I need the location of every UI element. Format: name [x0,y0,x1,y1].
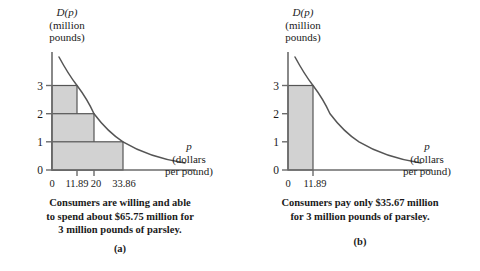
y-tick-label-0: 0 [37,164,43,176]
x-axis-unit-line2: per pound) [403,165,451,177]
x-ticks-a [77,170,94,176]
plot-area-b: 0 1 2 3 0 11.89 D(p) (million pounds) [240,0,480,195]
x-axis-variable-label: p [424,140,430,152]
caption-a-line1: Consumers are willing and able [49,197,191,208]
y-axis-label-a: D(p) (million pounds) [30,6,104,44]
expenditure-rect [288,86,313,171]
x-axis-variable-label: p [186,140,192,152]
y-tick-labels-b: 0 1 2 3 [273,80,279,176]
panel-letter-a: (a) [0,243,240,254]
step-rectangles-a [52,86,123,171]
y-axis-function-label: D(p) [57,6,78,18]
plot-area-a: 0 1 2 3 0 11.89 20 33.86 D(p) [0,0,240,195]
x-tick-label-1: 11.89 [303,178,326,189]
y-axis-unit-line1: (million [285,19,320,31]
step-rectangles-b [288,86,313,171]
x-axis-unit-line1: (dollars [410,153,444,165]
caption-a-line3: 3 million pounds of parsley. [58,224,181,235]
x-tick-labels-a: 0 11.89 20 33.86 [49,178,135,189]
x-tick-label-0: 0 [285,178,290,189]
x-axis-label-a: p (dollars per pound) [150,140,228,178]
caption-a-line2: to spend about $65.75 million for [46,211,194,222]
x-tick-labels-b: 0 11.89 [285,178,326,189]
panel-b: 0 1 2 3 0 11.89 D(p) (million pounds) [240,0,480,271]
caption-b-line2: for 3 million pounds of parsley. [290,211,429,222]
y-tick-label-3: 3 [37,80,43,92]
x-axis-unit-line1: (dollars [172,153,206,165]
y-axis-label-b: D(p) (million pounds) [266,6,340,44]
x-tick-label-2: 20 [91,178,102,189]
panel-a: 0 1 2 3 0 11.89 20 33.86 D(p) [0,0,240,271]
y-ticks-a [46,86,52,171]
y-axis-unit-line2: pounds) [49,31,84,43]
caption-b-line1: Consumers pay only $35.67 million [281,197,438,208]
x-tick-label-1: 11.89 [65,178,88,189]
y-ticks-b [282,86,288,171]
y-axis-unit-line1: (million [49,19,84,31]
y-tick-label-0: 0 [273,164,279,176]
x-axis-label-b: p (dollars per pound) [388,140,466,178]
caption-a: Consumers are willing and able to spend … [8,196,232,237]
x-tick-label-0: 0 [49,178,54,189]
y-tick-label-2: 2 [273,108,279,120]
x-tick-label-3: 33.86 [112,178,136,189]
y-tick-label-2: 2 [37,108,43,120]
step-rect-3 [52,142,123,170]
y-tick-label-3: 3 [273,80,279,92]
y-tick-labels-a: 0 1 2 3 [37,80,43,176]
y-tick-label-1: 1 [273,136,279,148]
y-axis-unit-line2: pounds) [285,31,320,43]
y-tick-label-1: 1 [37,136,43,148]
caption-b: Consumers pay only $35.67 million for 3 … [248,196,472,223]
x-axis-unit-line2: per pound) [165,165,213,177]
figure-container: 0 1 2 3 0 11.89 20 33.86 D(p) [0,0,480,271]
y-axis-function-label: D(p) [293,6,314,18]
panel-letter-b: (b) [240,236,480,247]
